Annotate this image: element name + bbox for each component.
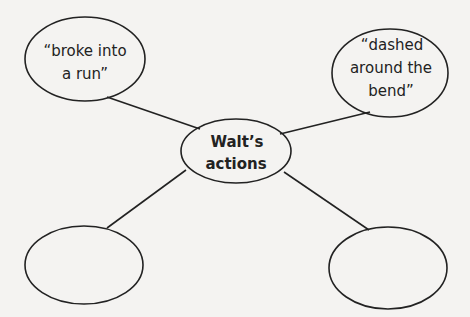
center-node: Walt’s actions [181, 119, 291, 183]
node-top-left: “broke into a run” [25, 17, 145, 101]
center-node-line-1: Walt’s [210, 133, 263, 151]
node-bottom-left-ellipse [25, 226, 143, 304]
node-top-right-line-1: “dashed [361, 36, 424, 54]
node-bottom-right [329, 227, 447, 309]
connector-top-right [280, 112, 370, 134]
node-bottom-left [25, 226, 143, 304]
center-node-ellipse [181, 119, 291, 183]
concept-web-diagram: “broke into a run” “dashed around the be… [0, 0, 470, 317]
node-top-right-line-3: bend” [368, 82, 414, 100]
connector-bottom-left [107, 170, 186, 228]
node-top-right-line-2: around the [350, 59, 432, 77]
node-top-left-line-2: a run” [62, 65, 108, 83]
node-top-left-line-1: “broke into [43, 42, 126, 60]
connector-bottom-right [284, 172, 369, 230]
connector-top-left [107, 97, 200, 129]
center-node-line-2: actions [205, 155, 266, 173]
node-top-right: “dashed around the bend” [332, 29, 448, 117]
node-bottom-right-ellipse [329, 227, 447, 309]
